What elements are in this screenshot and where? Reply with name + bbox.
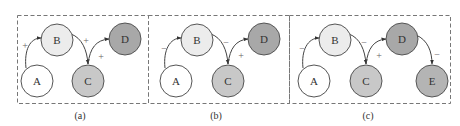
- node-d-label: D: [121, 33, 129, 45]
- sign-b-to-c: +: [83, 35, 89, 46]
- sign-a-to-b: −: [299, 43, 305, 54]
- caption-b: (b): [210, 110, 222, 122]
- panel-a: + + + A B C D (a): [18, 16, 149, 122]
- node-a: A: [21, 65, 53, 97]
- node-a: A: [160, 65, 192, 97]
- edge-a-to-b: [303, 38, 319, 68]
- node-b-label: B: [193, 34, 200, 46]
- node-c: C: [72, 65, 104, 97]
- node-b: B: [319, 24, 351, 56]
- node-d: D: [109, 23, 141, 55]
- node-d: D: [248, 23, 280, 55]
- caption-a: (a): [74, 110, 85, 122]
- caption-c: (c): [362, 110, 373, 122]
- node-d: D: [386, 23, 418, 55]
- sign-c-to-d: +: [376, 50, 382, 61]
- sign-b-to-c: −: [223, 37, 229, 48]
- node-b: B: [181, 24, 213, 56]
- node-a-label: A: [310, 75, 318, 87]
- sign-a-to-b: +: [22, 40, 28, 51]
- node-c-label: C: [362, 75, 369, 87]
- sign-b-to-c: −: [361, 37, 367, 48]
- node-a: A: [298, 65, 330, 97]
- sign-a-to-b: −: [161, 43, 167, 54]
- node-c: C: [350, 65, 382, 97]
- sign-c-to-d: +: [98, 51, 104, 62]
- node-e-label: E: [429, 75, 436, 87]
- node-a-label: A: [33, 75, 41, 87]
- panel-b: − − + A B C D (b): [149, 16, 290, 122]
- node-e: E: [416, 65, 448, 97]
- sign-d-to-e: −: [434, 49, 440, 60]
- node-c-label: C: [84, 75, 91, 87]
- node-c-label: C: [224, 75, 231, 87]
- node-d-label: D: [260, 33, 268, 45]
- node-c: C: [212, 65, 244, 97]
- panel-c: − − + − A B C D E (c): [290, 16, 451, 122]
- node-b-label: B: [53, 34, 60, 46]
- edge-a-to-b: [165, 38, 181, 68]
- node-b: B: [41, 24, 73, 56]
- node-a-label: A: [172, 75, 180, 87]
- edge-a-to-b: [26, 38, 41, 68]
- sign-c-to-d: +: [238, 50, 244, 61]
- node-d-label: D: [398, 33, 406, 45]
- node-b-label: B: [331, 34, 338, 46]
- diagram-canvas: + + + A B C D (a) − − +: [0, 0, 460, 126]
